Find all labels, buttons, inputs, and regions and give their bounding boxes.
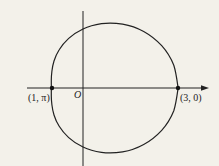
point-1-pi-marker <box>50 86 54 90</box>
origin-label: O <box>74 89 81 100</box>
point-3-0-label: (3, 0) <box>180 92 202 104</box>
point-1-pi-label: (1, π) <box>28 92 50 104</box>
polar-curve-diagram: (1, π) O (3, 0) <box>0 0 219 166</box>
point-3-0-marker <box>176 86 180 90</box>
x-axis-arrow-icon <box>201 85 209 90</box>
